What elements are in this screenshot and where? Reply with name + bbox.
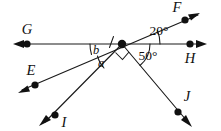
arrowhead-G	[13, 40, 24, 48]
point-label-F: F	[172, 0, 182, 15]
angle-label-b: b	[93, 43, 99, 57]
point-label-E: E	[26, 62, 36, 78]
point-label-G: G	[22, 21, 33, 37]
angle-label-50: 50°	[139, 48, 158, 63]
point-dot-G	[23, 40, 30, 47]
right-angle-marker	[116, 52, 130, 60]
point-label-H: H	[184, 50, 197, 66]
geometry-diagram-canvas: F G H E I J 20° 50° b a	[0, 0, 221, 131]
arrowhead-H	[196, 40, 207, 48]
point-label-I: I	[61, 114, 68, 130]
arrowhead-I	[39, 115, 51, 126]
arrowhead-E	[18, 86, 30, 94]
arrowhead-J	[181, 115, 192, 127]
geometry-figure: F G H E I J 20° 50° b a	[0, 0, 221, 131]
point-dot-J	[174, 108, 181, 115]
point-label-J: J	[184, 88, 191, 104]
line-EF	[22, 15, 198, 90]
point-dot-H	[186, 40, 193, 47]
angle-label-a: a	[98, 56, 104, 70]
ray-to-I	[45, 44, 122, 122]
point-dot-E	[31, 81, 38, 88]
angle-label-20: 20°	[150, 23, 169, 38]
point-dot-I	[51, 111, 58, 118]
arrowhead-F	[188, 13, 200, 21]
angle-arc-b	[90, 44, 92, 55]
angle-b-tick-mark	[110, 37, 114, 48]
vertex-dot	[118, 40, 126, 48]
point-dot-F	[181, 16, 188, 23]
